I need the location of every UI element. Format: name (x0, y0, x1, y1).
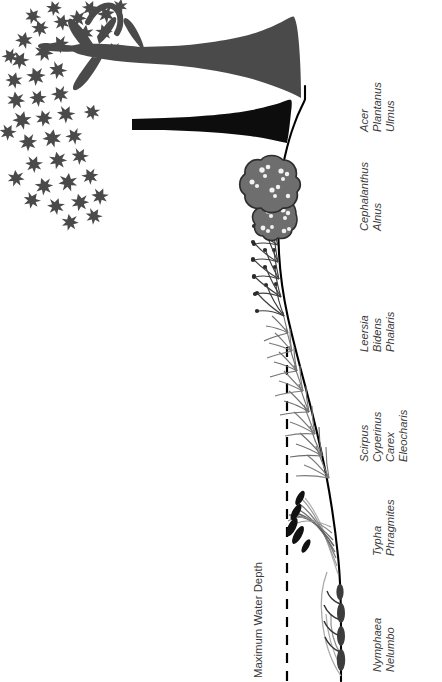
zone-genus-label: Acer (358, 108, 370, 133)
zone-genus-label: Plantanus (371, 82, 383, 132)
shrub-canopy (240, 156, 301, 213)
seed-head-dot (252, 242, 256, 246)
lily-pad (337, 626, 345, 646)
maximum-water-depth-label: Maximum Water Depth (252, 562, 264, 678)
zone-genus-label: Nelumbo (384, 627, 396, 672)
lily-pad (336, 584, 343, 600)
zone-genus-label: Nymphaea (371, 618, 383, 672)
seed-head-dot (252, 275, 256, 279)
zone-genus-label: Bidens (371, 317, 383, 352)
seed-head-dot (263, 248, 267, 252)
zone-genus-label: Cephalanthus (358, 162, 370, 231)
seed-head-dot (251, 258, 255, 262)
wetland-zonation-figure: Maximum Water Depth (0, 0, 442, 682)
seed-head-dot (255, 309, 259, 313)
zone-genus-label: Cyperinus (371, 411, 383, 462)
zone-genus-label: Typha (371, 526, 383, 556)
zone-genus-label: Leersia (358, 315, 370, 352)
figure-svg: Maximum Water Depth (0, 0, 442, 682)
lily-pad (337, 649, 345, 671)
zone-genus-label: Alnus (371, 203, 383, 232)
seed-head-dot (253, 292, 257, 296)
lily-pad (337, 603, 345, 623)
zone-genus-label: Scirpus (358, 424, 370, 462)
zone-genus-label: Eleocharis (397, 409, 409, 462)
zone-genus-label: Carex (384, 432, 396, 462)
zone-genus-label: Phragmites (384, 499, 396, 556)
zone-genus-label: Phalaris (384, 311, 396, 352)
zone-genus-label: Ulmus (384, 100, 396, 132)
